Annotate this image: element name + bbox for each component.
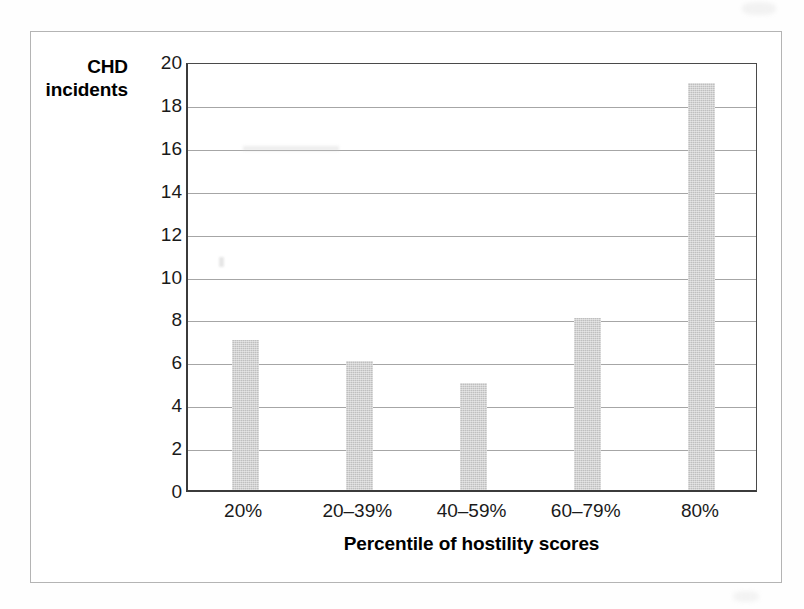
gridline	[188, 107, 756, 108]
y-axis-tick-label: 4	[142, 395, 182, 417]
y-axis-tick-label: 20	[142, 52, 182, 74]
bar	[688, 83, 715, 491]
x-axis-title: Percentile of hostility scores	[186, 533, 757, 555]
bar	[346, 361, 373, 490]
y-axis-tick-label: 8	[142, 309, 182, 331]
scan-artifact	[733, 591, 759, 602]
y-axis-tick-label: 18	[142, 95, 182, 117]
bar	[460, 383, 487, 490]
bar	[574, 318, 601, 490]
scan-artifact	[742, 2, 776, 15]
gridline	[188, 150, 756, 151]
y-axis-title-line-2: incidents	[20, 78, 128, 101]
y-axis-tick-label: 10	[142, 267, 182, 289]
bar	[232, 340, 259, 490]
y-axis-tick-label: 2	[142, 438, 182, 460]
gridline	[188, 279, 756, 280]
gridline	[188, 236, 756, 237]
plot-area	[186, 63, 757, 492]
y-axis-tick-label: 12	[142, 224, 182, 246]
gridline	[188, 364, 756, 365]
y-axis-tick-label: 16	[142, 138, 182, 160]
x-axis-tick-label: 80%	[630, 500, 770, 522]
y-axis-title-line-1: CHD	[20, 55, 128, 78]
y-axis-tick-label: 6	[142, 352, 182, 374]
gridline	[188, 321, 756, 322]
y-axis-tick-label: 14	[142, 181, 182, 203]
figure-root: CHD incidents 02468101214161820 20%20–39…	[0, 0, 804, 609]
y-axis-title: CHD incidents	[20, 55, 128, 101]
gridline	[188, 193, 756, 194]
